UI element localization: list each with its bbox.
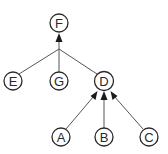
edge-E: [19, 49, 59, 74]
edge-A-to-D: [66, 96, 94, 129]
node-C: C: [140, 128, 158, 146]
node-label-F: F: [55, 16, 63, 31]
node-E: E: [4, 72, 22, 90]
node-label-A: A: [57, 130, 66, 145]
node-B: B: [95, 128, 113, 146]
arrowhead-B-to-D: [101, 91, 108, 100]
node-F: F: [50, 14, 68, 32]
node-label-D: D: [99, 74, 108, 89]
edges-to-F: [19, 33, 97, 74]
node-A: A: [52, 128, 70, 146]
tree-diagram: F E G D A B C: [0, 0, 168, 154]
node-D: D: [95, 72, 114, 91]
edge-C-to-D: [114, 96, 143, 129]
edge-D: [59, 49, 97, 74]
node-label-E: E: [9, 74, 18, 89]
node-label-B: B: [100, 130, 109, 145]
node-label-G: G: [54, 74, 64, 89]
edges-to-D: [66, 91, 143, 129]
arrowhead-into-F: [56, 33, 63, 42]
node-G: G: [50, 72, 68, 90]
node-label-C: C: [144, 130, 153, 145]
